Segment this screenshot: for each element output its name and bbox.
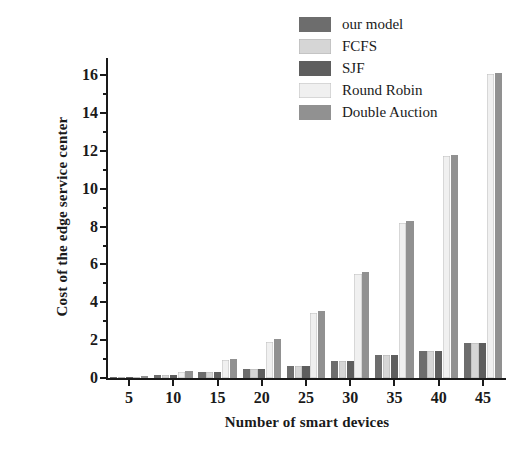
x-tick-mark — [393, 380, 395, 386]
x-tick-label-30: 30 — [342, 389, 358, 407]
legend-swatch — [299, 17, 331, 32]
x-tick-mark — [349, 380, 351, 386]
chart-legend: our modelFCFSSJFRound RobinDouble Auctio… — [299, 13, 514, 123]
bar — [110, 377, 117, 379]
y-minor-tick — [103, 358, 107, 360]
y-axis-title: Cost of the edge service center — [54, 67, 71, 367]
bar — [126, 377, 133, 379]
bar — [451, 155, 458, 378]
bar — [406, 221, 413, 378]
legend-label: Round Robin — [342, 83, 422, 98]
x-tick-label-25: 25 — [298, 389, 314, 407]
x-tick-label-40: 40 — [431, 389, 447, 407]
bar — [243, 369, 250, 378]
y-tick-label: 2 — [90, 331, 98, 349]
bar — [479, 343, 486, 378]
legend-item-double-auction[interactable]: Double Auction — [299, 101, 514, 123]
x-axis-title: Number of smart devices — [107, 414, 507, 431]
y-tick-label: 8 — [90, 218, 98, 236]
bar — [222, 360, 229, 378]
bar — [435, 351, 442, 378]
chart-figure: Cost of the edge service center 02468101… — [0, 0, 524, 449]
x-tick-mark — [438, 380, 440, 386]
bar — [287, 366, 294, 378]
x-tick-label-20: 20 — [254, 389, 270, 407]
bar — [266, 342, 273, 378]
x-tick-mark — [261, 380, 263, 386]
bar — [443, 156, 450, 378]
bar — [391, 355, 398, 378]
bar — [339, 361, 346, 378]
bar-group-5 — [110, 60, 148, 378]
bar — [354, 274, 361, 378]
x-tick-mark — [217, 380, 219, 386]
bar — [214, 372, 221, 378]
bar — [178, 372, 185, 378]
legend-item-our-model[interactable]: our model — [299, 13, 514, 35]
x-tick-mark — [128, 380, 130, 386]
y-tick-label: 10 — [82, 180, 98, 198]
legend-swatch — [299, 61, 331, 76]
y-tick-mark — [100, 301, 107, 303]
y-tick-mark — [100, 377, 107, 379]
y-minor-tick — [103, 93, 107, 95]
bar — [427, 351, 434, 378]
legend-item-sjf[interactable]: SJF — [299, 57, 514, 79]
bar-group-10 — [154, 60, 192, 378]
bar — [419, 351, 426, 378]
bar — [383, 355, 390, 378]
x-tick-label-15: 15 — [210, 389, 226, 407]
y-minor-tick — [103, 282, 107, 284]
bar — [310, 313, 317, 378]
bar — [154, 375, 161, 378]
bar — [295, 366, 302, 378]
legend-item-fcfs[interactable]: FCFS — [299, 35, 514, 57]
x-tick-mark — [172, 380, 174, 386]
legend-item-round-robin[interactable]: Round Robin — [299, 79, 514, 101]
bar — [375, 355, 382, 378]
y-tick-label: 6 — [90, 255, 98, 273]
y-tick-mark — [100, 226, 107, 228]
x-tick-label-10: 10 — [165, 389, 181, 407]
y-tick-label: 0 — [90, 369, 98, 387]
bar — [318, 311, 325, 378]
y-tick-label: 14 — [82, 104, 98, 122]
y-minor-tick — [103, 207, 107, 209]
legend-label: FCFS — [342, 39, 377, 54]
bar — [399, 223, 406, 378]
y-tick-mark — [100, 112, 107, 114]
legend-swatch — [299, 39, 331, 54]
bar — [206, 372, 213, 378]
y-tick-label: 4 — [90, 293, 98, 311]
bar — [258, 369, 265, 378]
bar — [274, 339, 281, 378]
y-tick-label: 16 — [82, 66, 98, 84]
y-tick-mark — [100, 74, 107, 76]
bar-group-15 — [198, 60, 236, 378]
legend-swatch — [299, 105, 331, 120]
y-minor-tick — [103, 169, 107, 171]
bar — [230, 359, 237, 378]
bar — [118, 377, 125, 379]
bar — [185, 371, 192, 378]
y-tick-mark — [100, 263, 107, 265]
bar — [250, 369, 257, 378]
x-tick-label-35: 35 — [386, 389, 402, 407]
bar-group-20 — [243, 60, 281, 378]
bar — [302, 366, 309, 378]
x-tick-label-45: 45 — [475, 389, 491, 407]
y-tick-mark — [100, 188, 107, 190]
bar — [198, 372, 205, 378]
x-tick-mark — [482, 380, 484, 386]
bar — [464, 343, 471, 378]
y-tick-label: 12 — [82, 142, 98, 160]
x-tick-label-5: 5 — [125, 389, 133, 407]
bar — [331, 361, 338, 378]
legend-label: Double Auction — [342, 105, 437, 120]
y-minor-tick — [103, 320, 107, 322]
y-minor-tick — [103, 131, 107, 133]
bar — [141, 376, 148, 378]
bar — [133, 377, 140, 379]
legend-swatch — [299, 83, 331, 98]
legend-label: SJF — [342, 61, 365, 76]
